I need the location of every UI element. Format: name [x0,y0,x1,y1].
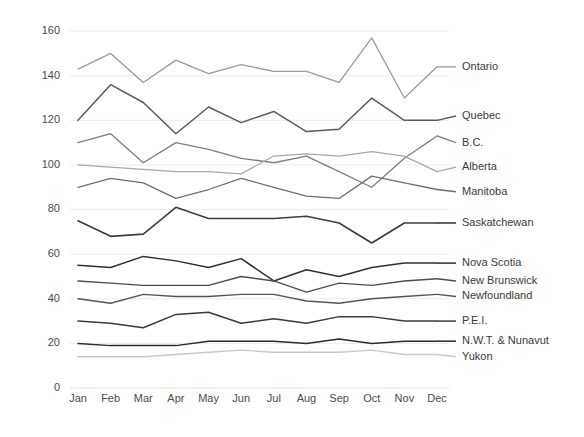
series-leader-line [437,279,456,281]
series-label: Ontario [462,60,498,72]
series-label: Alberta [462,160,498,172]
series-line [78,152,437,174]
chart-plot-area: 020406080100120140160JanFebMarAprMayJunJ… [0,0,584,437]
y-axis-tick-label: 60 [48,247,60,259]
x-axis-tick-label: Apr [167,392,184,404]
y-axis-tick-label: 120 [42,113,60,125]
series-label: Saskatchewan [462,216,534,228]
y-axis-tick-label: 80 [48,202,60,214]
series-line [78,85,437,134]
y-axis-tick-label: 0 [54,381,60,393]
line-chart: 020406080100120140160JanFebMarAprMayJunJ… [0,0,584,437]
series-leader-line [437,294,456,296]
x-axis-tick-label: May [198,392,219,404]
x-axis-tick-label: Jan [69,392,87,404]
series-label: P.E.I. [462,314,487,326]
series-line [78,256,437,281]
x-axis-tick-label: Sep [329,392,349,404]
series-line [78,350,437,357]
series-line [78,176,437,198]
series-line [78,38,437,98]
series-label: Nova Scotia [462,256,522,268]
x-axis-tick-label: Jun [232,392,250,404]
y-axis-tick-label: 40 [48,292,60,304]
x-axis-tick-label: Dec [427,392,447,404]
series-label: B.C. [462,136,483,148]
x-axis-tick-label: Mar [134,392,153,404]
series-leader-line [437,355,456,357]
y-axis-tick-label: 100 [42,158,60,170]
x-axis-tick-label: Oct [363,392,380,404]
series-line [78,276,437,292]
series-line [78,207,437,243]
x-axis-tick-label: Aug [297,392,317,404]
series-leader-line [437,167,456,171]
series-label: New Brunswick [462,274,538,286]
series-label: Newfoundland [462,289,532,301]
series-line [78,339,437,346]
x-axis-tick-label: Feb [101,392,120,404]
series-line [78,312,437,328]
series-line [78,134,437,188]
series-label: Yukon [462,350,493,362]
series-leader-line [437,190,456,192]
series-label: Manitoba [462,185,508,197]
series-label: Quebec [462,109,501,121]
series-leader-line [437,136,456,143]
y-axis-tick-label: 140 [42,69,60,81]
y-axis-tick-label: 160 [42,24,60,36]
x-axis-tick-label: Jul [267,392,281,404]
x-axis-tick-label: Nov [395,392,415,404]
y-axis-tick-label: 20 [48,336,60,348]
series-leader-line [437,116,456,120]
series-label: N.W.T. & Nunavut [462,334,549,346]
